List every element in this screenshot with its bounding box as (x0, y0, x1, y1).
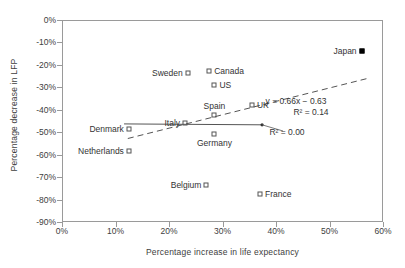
y-tick-label: -90% (22, 217, 56, 227)
x-tick-label: 0% (56, 226, 68, 236)
data-point-marker (207, 68, 212, 73)
data-point-marker (249, 103, 254, 108)
y-tick-label: 0% (22, 15, 56, 25)
data-point-label: Italy (164, 119, 180, 128)
data-point-label: Canada (214, 66, 244, 75)
y-tick-label: -30% (22, 82, 56, 92)
solid-r2: R² = 0.00 (269, 127, 304, 138)
data-point-label: Japan (333, 47, 356, 56)
data-point-label: Denmark (89, 125, 123, 134)
x-tick-label: 60% (374, 226, 391, 236)
x-tick-label: 30% (214, 226, 231, 236)
x-tick-label: 50% (321, 226, 338, 236)
y-tick-label: -40% (22, 105, 56, 115)
y-tick-label: -70% (22, 172, 56, 182)
y-tick-label: -60% (22, 150, 56, 160)
dashed-r2: R² = 0.14 (293, 107, 328, 118)
scatter-chart: Percentage decrease in LFP Percentage in… (0, 0, 405, 268)
data-point-label: Sweden (152, 68, 183, 77)
data-point-marker (359, 49, 364, 54)
y-tick-label: -20% (22, 60, 56, 70)
data-point-marker (183, 121, 188, 126)
x-tick-mark (223, 222, 224, 227)
x-tick-mark (116, 222, 117, 227)
data-point-marker (257, 191, 262, 196)
data-point-label: Spain (204, 102, 226, 111)
x-tick-label: 10% (107, 226, 124, 236)
x-tick-label: 20% (160, 226, 177, 236)
data-point-marker (212, 132, 217, 137)
data-point-label: Netherlands (78, 147, 124, 156)
data-point-label: France (265, 190, 291, 199)
x-tick-mark (169, 222, 170, 227)
data-point-marker (212, 113, 217, 118)
x-tick-mark (383, 222, 384, 227)
x-tick-label: 40% (267, 226, 284, 236)
y-tick-label: -50% (22, 127, 56, 137)
data-point-label: US (219, 81, 231, 90)
y-axis-title: Percentage decrease in LFP (9, 50, 19, 180)
dashed-equation: y = 0.66x − 0.63 (266, 96, 327, 107)
y-tick-label: -10% (22, 37, 56, 47)
data-point-marker (185, 70, 190, 75)
x-tick-mark (330, 222, 331, 227)
y-tick-label: -80% (22, 195, 56, 205)
x-tick-mark (276, 222, 277, 227)
data-point-marker (212, 83, 217, 88)
data-point-marker (126, 126, 131, 131)
data-point-label: Germany (197, 139, 232, 148)
data-point-marker (204, 182, 209, 187)
x-axis-title: Percentage increase in life expectancy (62, 247, 383, 257)
data-point-label: Belgium (171, 181, 202, 190)
x-tick-mark (62, 222, 63, 227)
data-point-marker (126, 149, 131, 154)
